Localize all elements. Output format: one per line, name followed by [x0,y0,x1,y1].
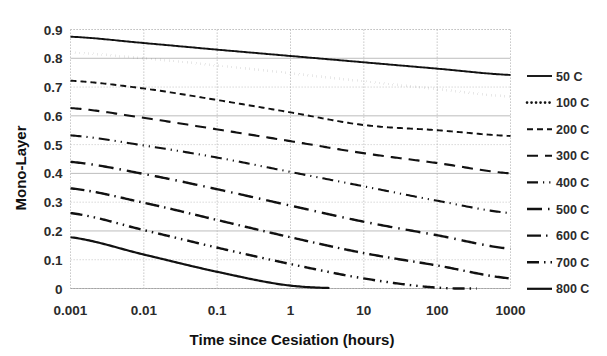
x-tick-label: 1 [287,303,295,318]
y-tick-label: 0 [55,282,63,297]
y-axis-title: Mono-Layer [12,125,29,210]
y-tick-label: 0.1 [44,253,63,268]
x-axis-title: Time since Cesiation (hours) [190,331,395,348]
legend-label-400-c: 400 C [556,176,589,190]
y-tick-label: 0.3 [44,195,63,210]
chart-legend: 50 C100 C200 C300 C400 C500 C600 C700 C8… [527,70,589,297]
y-tick-label: 0.6 [44,109,63,124]
y-tick-label: 0.9 [44,23,63,38]
legend-label-800-c: 800 C [556,282,589,296]
y-tick-label: 0.7 [44,80,63,95]
legend-label-500-c: 500 C [556,203,589,217]
x-tick-label: 0.1 [208,303,227,318]
legend-label-100-c: 100 C [556,96,589,110]
x-tick-label: 0.01 [131,303,158,318]
x-tick-label: 0.001 [54,303,88,318]
y-tick-label: 0.5 [44,138,63,153]
x-tick-label: 100 [426,303,449,318]
x-tick-label: 10 [356,303,371,318]
chart-container: 00.10.20.30.40.50.60.70.80.9 0.0010.010.… [0,0,607,356]
line-chart: 00.10.20.30.40.50.60.70.80.9 0.0010.010.… [0,0,607,356]
legend-label-200-c: 200 C [556,123,589,137]
y-tick-label: 0.4 [44,166,63,181]
legend-label-50-c: 50 C [556,70,582,84]
x-tick-label: 1000 [495,303,525,318]
y-tick-label: 0.8 [44,51,63,66]
legend-label-600-c: 600 C [556,229,589,243]
legend-label-300-c: 300 C [556,149,589,163]
legend-label-700-c: 700 C [556,256,589,270]
y-tick-label: 0.2 [44,224,63,239]
